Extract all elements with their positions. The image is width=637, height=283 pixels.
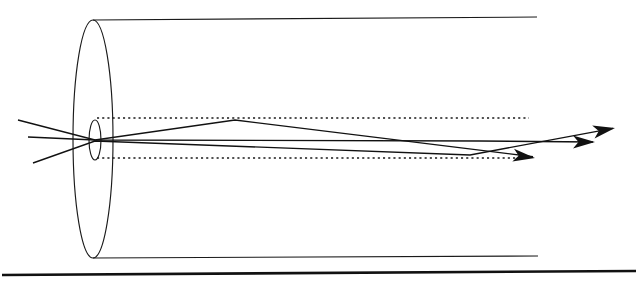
barrel-body bbox=[93, 17, 538, 258]
barrel-top-edge bbox=[93, 17, 537, 20]
bottom-horizontal-rule bbox=[2, 271, 636, 275]
optical-ray-diagram: Optical ray trace through a lens inside … bbox=[0, 0, 637, 283]
arrow-ray-upper-exit-icon bbox=[592, 122, 616, 139]
ray-upper-incoming bbox=[18, 120, 533, 157]
barrel-bottom-edge bbox=[93, 256, 538, 258]
diagram-canvas bbox=[0, 0, 637, 283]
ray-arrow-heads bbox=[512, 122, 616, 165]
aperture-guide-lines bbox=[97, 118, 529, 158]
